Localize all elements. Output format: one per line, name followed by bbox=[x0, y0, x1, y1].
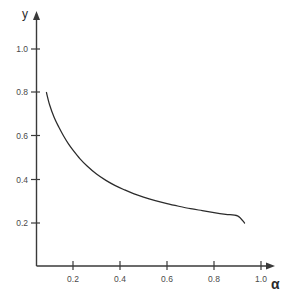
x-axis-arrow-icon bbox=[266, 263, 275, 270]
y-axis-arrow-icon bbox=[33, 11, 40, 20]
x-tick-label-0.2: 0.2 bbox=[67, 274, 79, 284]
y-tick-label-0.6: 0.6 bbox=[16, 131, 28, 141]
y-axis-title: y bbox=[22, 7, 28, 21]
y-tick-label-1.0: 1.0 bbox=[16, 44, 28, 54]
x-tick-label-0.4: 0.4 bbox=[114, 274, 126, 284]
y-tick-label-0.8: 0.8 bbox=[16, 87, 28, 97]
x-tick-label-1.0: 1.0 bbox=[255, 274, 267, 284]
line-chart: 1.0 0.8 0.6 0.4 0.2 0.2 0.4 0.6 0.8 1.0 … bbox=[0, 0, 290, 293]
data-curve bbox=[46, 93, 244, 224]
x-tick-label-0.6: 0.6 bbox=[161, 274, 173, 284]
x-tick-label-0.8: 0.8 bbox=[208, 274, 220, 284]
y-tick-label-0.4: 0.4 bbox=[16, 175, 28, 185]
chart-container: 1.0 0.8 0.6 0.4 0.2 0.2 0.4 0.6 0.8 1.0 … bbox=[0, 0, 290, 293]
x-axis-title: α bbox=[271, 276, 280, 292]
y-tick-label-0.2: 0.2 bbox=[16, 218, 28, 228]
